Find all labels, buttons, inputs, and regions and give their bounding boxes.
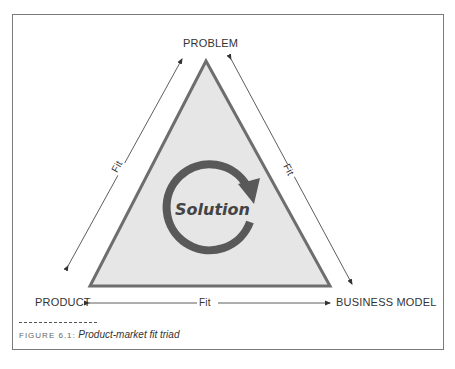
vertex-problem: PROBLEM	[183, 37, 238, 49]
figure-number: FIGURE 6.1:	[19, 331, 76, 340]
figure-caption: FIGURE 6.1: Product-market fit triad	[19, 329, 179, 340]
triad-diagram	[0, 0, 455, 369]
vertex-product: PRODUCT	[35, 296, 91, 308]
vertex-business-model: BUSINESS MODEL	[336, 296, 437, 308]
fit-label-bottom: Fit	[199, 297, 211, 308]
solution-label: Solution	[175, 200, 250, 219]
figure-title: Product-market fit triad	[78, 329, 179, 340]
caption-divider	[19, 322, 97, 323]
